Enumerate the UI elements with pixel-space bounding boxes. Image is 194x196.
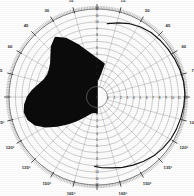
angular-tick-label: 30 <box>45 8 50 13</box>
radial-tick-label: 4 <box>133 96 135 100</box>
radial-tick-label: 6 <box>146 96 148 100</box>
angular-tick-label: 120° <box>6 145 15 150</box>
radial-tick-label: 0 <box>107 96 109 100</box>
angular-tick-label: 180° <box>93 195 102 196</box>
radial-tick-label: 5 <box>139 96 141 100</box>
angular-tick-label: 15 <box>121 0 126 3</box>
radial-tick-label: 11 <box>177 96 180 100</box>
radial-tick-label: 10 <box>95 170 99 174</box>
radial-tick-label: 1 <box>114 96 116 100</box>
angular-tick-label: 30 <box>145 8 150 13</box>
polar-plot-canvas: 0123456789101112112233445566778899101011… <box>0 0 194 196</box>
radial-tick-label: 10 <box>171 96 175 100</box>
radial-tick-label: 7 <box>152 96 154 100</box>
angular-tick-label: 105° <box>0 120 5 125</box>
angular-tick-label: 60 <box>8 44 13 49</box>
center-point <box>96 96 98 98</box>
angular-tick-label: 135° <box>164 165 173 170</box>
angular-tick-label: 150° <box>43 181 52 186</box>
radial-tick-label: 12 <box>95 7 99 11</box>
angular-tick-label: 15 <box>69 0 74 3</box>
radial-tick-label: 3 <box>127 96 129 100</box>
angular-tick-label: 165° <box>119 191 128 196</box>
angular-tick-label: 45 <box>24 23 29 28</box>
radial-tick-label: 11 <box>95 14 98 18</box>
angular-tick-label: 45 <box>166 23 171 28</box>
angular-tick-label: 135° <box>22 165 31 170</box>
angular-tick-label: 60 <box>182 44 187 49</box>
angular-tick-label: 165° <box>67 191 76 196</box>
angular-tick-label: 105° <box>190 120 194 125</box>
radial-tick-label: 12 <box>184 96 188 100</box>
radial-tick-label: 10 <box>95 20 99 24</box>
angular-tick-label: 120° <box>180 145 189 150</box>
radial-tick-label: 9 <box>165 96 167 100</box>
angular-tick-label: 75 <box>192 68 194 73</box>
angular-tick-label: 150° <box>143 181 152 186</box>
polar-diagram-figure: 0123456789101112112233445566778899101011… <box>0 0 194 196</box>
radial-tick-label: 2 <box>120 96 122 100</box>
radial-tick-label: 11 <box>95 177 98 181</box>
radial-tick-label: 8 <box>159 96 161 100</box>
radial-tick-label: 12 <box>95 183 99 187</box>
